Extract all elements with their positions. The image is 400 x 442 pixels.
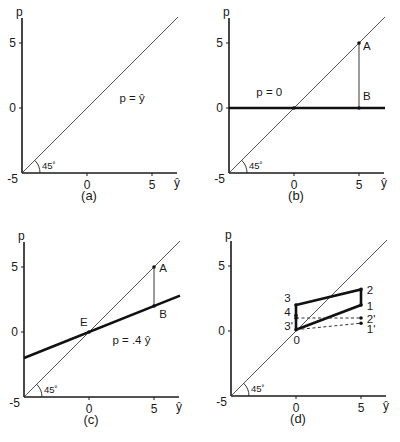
point-label: 3' xyxy=(284,320,293,332)
x-tick-label: 5 xyxy=(149,178,156,192)
point-B xyxy=(357,106,361,110)
point-E xyxy=(87,330,91,334)
origin-tick-label: -5 xyxy=(216,395,227,409)
y-tick-label: 5 xyxy=(216,36,223,50)
x-axis-label: ŷ xyxy=(383,399,389,413)
panel-caption: (d) xyxy=(290,411,306,426)
angle-arc xyxy=(242,160,247,173)
x-axis-label: ŷ xyxy=(176,400,182,414)
panel-b: pŷ50-50545˚ABp = 0(b) xyxy=(214,5,387,203)
origin-tick-label: -5 xyxy=(7,172,18,186)
line-annotation: p = .4 ŷ xyxy=(112,334,150,346)
y-axis-label: p xyxy=(223,5,230,19)
series-p-4 xyxy=(24,296,180,358)
point-label: E xyxy=(80,316,88,328)
line-annotation: p = 0 xyxy=(256,86,282,98)
series-45-degree-line xyxy=(22,17,178,173)
x-axis-label: ŷ xyxy=(381,176,387,190)
panel-a: pŷ50-50545˚p = ŷ(a) xyxy=(7,5,180,203)
x-axis-label: ŷ xyxy=(174,176,180,190)
y-tick-label: 0 xyxy=(216,101,223,115)
y-axis-label: p xyxy=(18,229,25,243)
point-B xyxy=(152,304,156,308)
point-3-prime xyxy=(294,316,298,320)
point-label: B xyxy=(159,308,167,320)
y-tick-label: 0 xyxy=(218,324,225,338)
point-label: 4 xyxy=(284,306,291,318)
y-axis-label: p xyxy=(16,5,23,19)
angle-label: 45˚ xyxy=(249,160,263,171)
angle-label: 45˚ xyxy=(42,160,56,171)
panel-caption: (a) xyxy=(81,188,97,203)
point-label: 3 xyxy=(284,292,290,304)
angle-arc xyxy=(37,384,42,397)
angle-arc xyxy=(35,160,40,173)
point-A xyxy=(357,41,361,45)
point-A xyxy=(152,265,156,269)
point-0 xyxy=(294,328,298,332)
series-45-degree-line xyxy=(229,17,385,173)
y-tick-label: 5 xyxy=(11,260,18,274)
x-tick-label: 5 xyxy=(358,401,365,415)
point-label: 2 xyxy=(367,284,373,296)
point-2 xyxy=(359,288,363,292)
point-label: B xyxy=(363,90,371,102)
y-tick-label: 0 xyxy=(11,325,18,339)
x-tick-label: 5 xyxy=(356,178,363,192)
line-annotation: p = ŷ xyxy=(120,92,146,104)
x-tick-label: 5 xyxy=(151,402,158,416)
point-origin xyxy=(292,106,296,110)
panel-c: pŷ50-50545˚EABp = .4 ŷ(c) xyxy=(9,229,182,427)
y-axis-label: p xyxy=(225,228,232,242)
point-label: A xyxy=(159,262,167,274)
angle-label: 45˚ xyxy=(44,384,58,395)
point-label: 1' xyxy=(367,323,376,335)
y-tick-label: 5 xyxy=(9,36,16,50)
angle-label: 45˚ xyxy=(251,383,265,394)
origin-tick-label: -5 xyxy=(214,172,225,186)
panel-caption: (c) xyxy=(83,412,98,427)
point-3 xyxy=(294,303,298,307)
series-45-degree-line xyxy=(24,241,180,397)
origin-tick-label: -5 xyxy=(9,396,20,410)
four-panel-figure: pŷ50-50545˚p = ŷ(a) pŷ50-50545˚ABp = 0(b… xyxy=(0,0,400,442)
panel-caption: (b) xyxy=(288,188,304,203)
series-cycle-path-0-1-2-3-0 xyxy=(296,289,361,329)
point-1-prime xyxy=(359,321,363,325)
point-label: 1 xyxy=(367,300,373,312)
angle-arc xyxy=(244,383,249,396)
point-label: A xyxy=(363,40,371,52)
point-2-prime xyxy=(359,316,363,320)
point-1 xyxy=(359,303,363,307)
point-label: 0 xyxy=(293,334,299,346)
panel-d: pŷ50-50545˚012343'2'1'(d) xyxy=(216,228,389,426)
y-tick-label: 0 xyxy=(9,101,16,115)
y-tick-label: 5 xyxy=(218,259,225,273)
